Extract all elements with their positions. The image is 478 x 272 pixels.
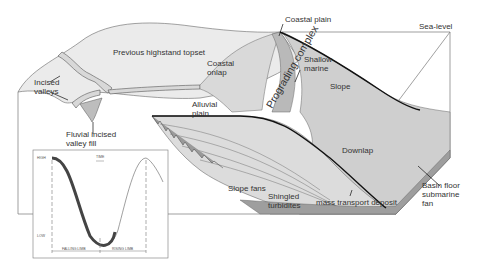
label-downlap: Downlap	[342, 146, 373, 155]
label-sea-level: Sea-level	[419, 22, 452, 31]
inset-falling-limb-label: FALLING LIMB	[62, 247, 86, 251]
inset-low-label: LOW	[37, 234, 45, 238]
label-coastal-onlap: Coastal onlap	[207, 59, 247, 77]
label-slope: Slope	[330, 82, 350, 91]
label-previous-highstand-topset: Previous highstand topset	[113, 48, 205, 57]
inset-time-label: TIME	[96, 155, 104, 159]
label-shingled-turbidites: Shingled turbidites	[268, 192, 302, 210]
sea-level-curve-inset	[33, 150, 168, 258]
inset-high-label: HIGH	[37, 156, 46, 160]
label-shallow-marine: Shallow marine	[304, 55, 344, 73]
inset-rising-limb-label: RISING LIMB	[112, 247, 133, 251]
label-slope-fans: Slope fans	[228, 184, 266, 193]
label-fluvial-incised-valley-fill: Fluvial incised valley fill	[66, 130, 126, 148]
label-incised-valleys: Incised valleys	[34, 78, 68, 96]
label-coastal-plain: Coastal plain	[285, 15, 331, 24]
label-mass-transport-deposit: mass transport deposit	[316, 198, 397, 207]
label-basin-floor-submarine-fan: Basin floor submarine fan	[422, 181, 466, 208]
label-alluvial-plain: Alluvial plain	[192, 100, 226, 118]
